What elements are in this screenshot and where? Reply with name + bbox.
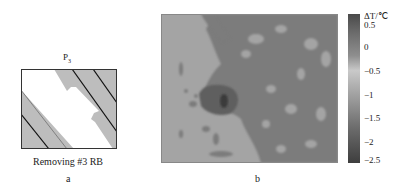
colorbar-tick: −2 <box>364 138 374 147</box>
colorbar-tick: −1.5 <box>364 114 380 123</box>
panel-a-title: P3 <box>63 53 71 64</box>
colorbar <box>348 14 360 163</box>
colorbar-tick: −1 <box>364 91 374 100</box>
temperature-heatmap <box>161 14 338 163</box>
panel-b-label: b <box>255 174 260 184</box>
colorbar-tick: 0 <box>364 43 369 52</box>
colorbar-tick: −0.5 <box>364 67 380 76</box>
colorbar-tick: 0.5 <box>364 21 375 30</box>
panel-a-label: a <box>66 174 70 184</box>
panel-a-caption: Removing #3 RB <box>33 157 103 167</box>
colorbar-tick: −2.5 <box>364 156 380 165</box>
panel-a-diagram <box>21 69 117 149</box>
